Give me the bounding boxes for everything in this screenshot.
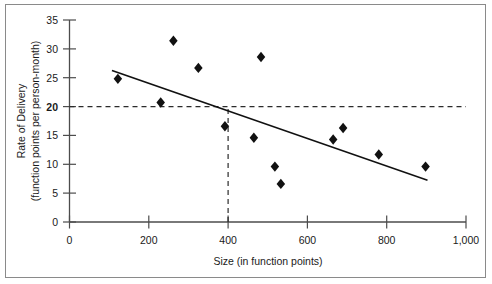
data-point-marker	[375, 149, 384, 159]
y-tick-label-20: 20	[46, 101, 58, 113]
x-tick-label-0: 0	[67, 234, 73, 246]
data-point-marker	[257, 52, 266, 62]
data-point-marker	[194, 63, 203, 73]
data-markers-layer	[114, 36, 430, 190]
scatter-plot: 35 30 25 20 15 10 5 0 0 200 400 600 800 …	[0, 0, 492, 284]
x-tick-label-400: 400	[219, 234, 237, 246]
data-point-marker	[114, 74, 123, 84]
data-point-marker	[271, 161, 280, 171]
x-axis-title: Size (in function points)	[213, 255, 322, 267]
trend-line-layer	[113, 71, 427, 180]
y-tick-label-25: 25	[46, 72, 58, 84]
y-tick-label-0: 0	[52, 216, 58, 228]
data-point-marker	[250, 133, 259, 143]
y-axis-title-line2: (function points per person-month)	[29, 41, 41, 202]
y-axis-title-line1: Rate of Delivery	[15, 83, 27, 158]
data-point-marker	[421, 161, 430, 171]
x-tick-label-800: 800	[378, 234, 396, 246]
data-point-marker	[277, 179, 286, 189]
data-point-marker	[339, 123, 348, 133]
x-tick-label-200: 200	[140, 234, 158, 246]
trend-line	[113, 71, 427, 180]
y-tick-label-30: 30	[46, 43, 58, 55]
data-point-marker	[329, 134, 338, 144]
figure-container: 35 30 25 20 15 10 5 0 0 200 400 600 800 …	[0, 0, 492, 284]
y-tick-label-35: 35	[46, 14, 58, 26]
y-tick-label-10: 10	[46, 158, 58, 170]
y-tick-label-5: 5	[52, 187, 58, 199]
data-point-marker	[169, 36, 178, 46]
x-tick-label-1000: 1,000	[453, 234, 479, 246]
y-tick-label-15: 15	[46, 129, 58, 141]
x-tick-label-600: 600	[299, 234, 317, 246]
